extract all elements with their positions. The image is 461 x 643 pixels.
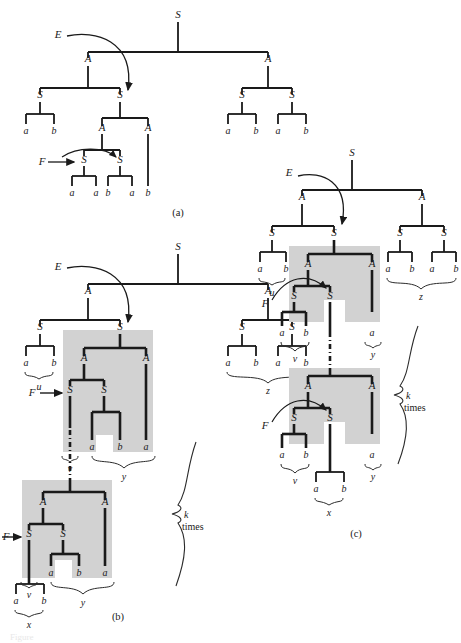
- terminal: b: [410, 263, 415, 274]
- node-A: A: [80, 351, 88, 363]
- pointer-label-F: F: [261, 419, 269, 431]
- terminal: b: [304, 125, 309, 136]
- terminal: b: [118, 441, 123, 452]
- terminal: a: [49, 567, 54, 578]
- node-S: S: [331, 226, 337, 238]
- terminal: b: [254, 125, 259, 136]
- node-S: S: [289, 88, 295, 100]
- pointer-arrow-E: [67, 34, 129, 90]
- node-S: S: [239, 88, 245, 100]
- brace-y-lower: [51, 582, 114, 594]
- terminal: a: [258, 263, 263, 274]
- brace-x: [315, 498, 343, 505]
- node-S: S: [175, 8, 181, 20]
- terminal: b: [52, 125, 57, 136]
- terminal: a: [430, 263, 435, 274]
- label-v: v: [293, 475, 298, 486]
- node-S: S: [269, 226, 275, 238]
- node-S: S: [327, 411, 333, 423]
- terminal: b: [304, 357, 309, 368]
- brace-u: [25, 372, 53, 379]
- terminal: b: [42, 595, 47, 606]
- label-z: z: [265, 385, 270, 396]
- terminal: b: [284, 263, 289, 274]
- label-k: k: [184, 509, 189, 520]
- label-v: v: [293, 353, 298, 364]
- terminal: a: [24, 125, 29, 136]
- pointer-label-F: F: [28, 386, 36, 398]
- brace-v-lower: [281, 464, 309, 473]
- terminal: a: [226, 125, 231, 136]
- pointer-label-F-lower-visible: F: [2, 530, 10, 542]
- panel-b-caption: (b): [112, 611, 125, 623]
- shade-upper: [289, 246, 380, 322]
- panel-c-k-times-brace: k times: [394, 326, 426, 464]
- terminal: a: [14, 595, 19, 606]
- terminal: a: [280, 449, 285, 460]
- brace-y-upper: [365, 342, 381, 348]
- terminal: a: [103, 567, 108, 578]
- terminal: a: [226, 357, 231, 368]
- node-A: A: [84, 52, 92, 64]
- label-x: x: [26, 619, 32, 630]
- label-y: y: [121, 471, 127, 482]
- node-A: A: [304, 379, 312, 391]
- node-S: S: [37, 88, 43, 100]
- terminal: a: [144, 441, 149, 452]
- label-y: y: [370, 349, 376, 360]
- node-A: A: [101, 495, 109, 507]
- panel-a-caption: (a): [172, 207, 184, 219]
- node-S: S: [117, 153, 123, 165]
- pointer-arrow-E: [67, 266, 129, 322]
- panel-b-k-times-brace: k times: [172, 442, 204, 586]
- panel-a: S A A S S S S A A S S a b a b a b a a b …: [24, 8, 309, 219]
- terminal: b: [52, 357, 57, 368]
- node-S: S: [81, 153, 87, 165]
- node-S: S: [117, 88, 123, 100]
- label-z: z: [418, 291, 423, 302]
- node-S: S: [291, 289, 297, 301]
- label-k: k: [406, 390, 411, 401]
- terminal: a: [70, 187, 75, 198]
- label-v: v: [27, 589, 32, 600]
- panel-a-pointer-F: F: [38, 149, 116, 167]
- figure-canvas: S A A S S S S A A S S a b a b a b a a b …: [0, 0, 461, 643]
- node-A: A: [84, 284, 92, 296]
- node-S: S: [26, 527, 32, 539]
- terminal: b: [304, 327, 309, 338]
- node-A: A: [368, 257, 376, 269]
- terminal: a: [276, 357, 281, 368]
- node-S: S: [239, 320, 245, 332]
- panel-b-pointer-F-upper: F: [28, 386, 62, 398]
- node-A: A: [264, 52, 272, 64]
- terminal: a: [280, 327, 285, 338]
- terminal: b: [304, 449, 309, 460]
- terminal: b: [454, 263, 459, 274]
- node-S: S: [327, 289, 333, 301]
- terminal: b: [254, 357, 259, 368]
- node-A: A: [39, 495, 47, 507]
- node-S: S: [117, 320, 123, 332]
- terminal: a: [370, 449, 375, 460]
- cut-off-caption: Figure: [10, 632, 34, 642]
- node-A: A: [142, 351, 150, 363]
- node-S: S: [67, 383, 73, 395]
- panel-c-x-subtree: [316, 472, 344, 482]
- label-y: y: [370, 471, 376, 482]
- node-S: S: [441, 226, 447, 238]
- pointer-label-E: E: [54, 260, 62, 272]
- brace-x: [15, 610, 43, 617]
- pointer-label-F: F: [261, 297, 269, 309]
- panel-a-node-labels: S A A S S S S A A S S: [37, 8, 295, 165]
- node-S: S: [349, 146, 355, 158]
- shade-lower: [22, 480, 112, 578]
- node-S: S: [291, 411, 297, 423]
- node-A: A: [298, 190, 306, 202]
- label-times: times: [404, 402, 426, 413]
- node-S: S: [37, 320, 43, 332]
- node-S: S: [397, 226, 403, 238]
- terminal: a: [130, 187, 135, 198]
- panel-b-shading: [22, 330, 153, 578]
- terminal: b: [77, 567, 82, 578]
- brace-z: [387, 278, 456, 289]
